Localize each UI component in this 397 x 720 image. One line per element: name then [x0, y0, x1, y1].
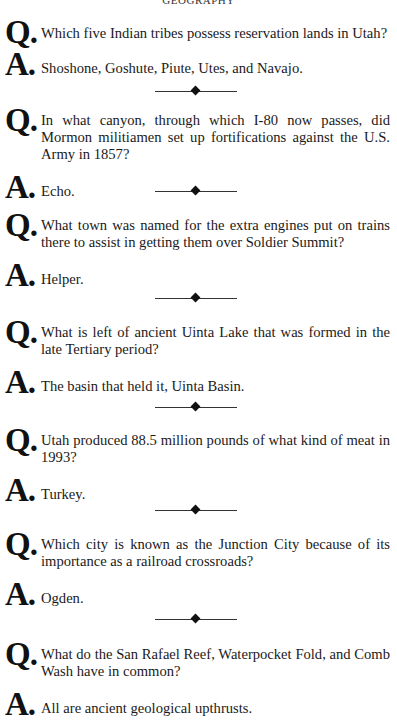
running-head: GEOGRAPHY: [0, 0, 397, 6]
question-text: Which five Indian tribes possess reserva…: [41, 14, 390, 42]
question-text: In what canyon, through which I-80 now p…: [41, 102, 390, 163]
question-row: Q. What is left of ancient Uinta Lake th…: [0, 314, 397, 358]
diamond-ornament-icon: [191, 86, 201, 96]
answer-row: A. Turkey.: [0, 476, 397, 503]
q-letter: Q.: [5, 638, 39, 671]
question-row: Q. What town was named for the extra eng…: [0, 207, 397, 251]
qa-item: Q. Utah produced 88.5 million pounds of …: [0, 422, 397, 503]
a-letter: A.: [5, 48, 37, 81]
answer-row: A. Ogden.: [0, 580, 397, 607]
section-divider: [155, 293, 237, 303]
answer-row: A. Helper.: [0, 261, 397, 288]
diamond-ornament-icon: [191, 186, 201, 196]
a-letter: A.: [5, 578, 37, 611]
section-divider: [155, 86, 237, 96]
answer-text: Turkey.: [41, 476, 390, 503]
question-text: Utah produced 88.5 million pounds of wha…: [41, 422, 390, 466]
question-row: Q. Which five Indian tribes possess rese…: [0, 14, 397, 42]
answer-text: The basin that held it, Uinta Basin.: [41, 368, 390, 395]
answer-row: A. All are ancient geological upthrusts.: [0, 690, 397, 717]
diamond-ornament-icon: [191, 402, 201, 412]
q-letter: Q.: [5, 104, 39, 137]
a-letter: A.: [5, 474, 37, 507]
question-row: Q. Utah produced 88.5 million pounds of …: [0, 422, 397, 466]
qa-item: Q. Which five Indian tribes possess rese…: [0, 14, 397, 77]
q-letter: Q.: [5, 528, 39, 561]
q-letter: Q.: [5, 209, 39, 242]
answer-text: Helper.: [41, 261, 390, 288]
answer-text: Ogden.: [41, 580, 390, 607]
a-letter: A.: [5, 171, 37, 204]
qa-item: Q. What town was named for the extra eng…: [0, 207, 397, 288]
answer-row: A. Shoshone, Goshute, Piute, Utes, and N…: [0, 50, 397, 77]
question-row: Q. What do the San Rafael Reef, Waterpoc…: [0, 636, 397, 680]
section-divider: [155, 186, 237, 196]
diamond-ornament-icon: [191, 614, 201, 624]
section-divider: [155, 402, 237, 412]
answer-text: Shoshone, Goshute, Piute, Utes, and Nava…: [41, 50, 390, 77]
question-text: What do the San Rafael Reef, Waterpocket…: [41, 636, 390, 680]
question-text: What is left of ancient Uinta Lake that …: [41, 314, 390, 358]
question-row: Q. In what canyon, through which I-80 no…: [0, 102, 397, 163]
q-letter: Q.: [5, 16, 39, 49]
diamond-ornament-icon: [191, 293, 201, 303]
section-divider: [155, 614, 237, 624]
section-divider: [155, 505, 237, 515]
a-letter: A.: [5, 366, 37, 399]
question-row: Q. Which city is known as the Junction C…: [0, 526, 397, 570]
qa-item: Q. Which city is known as the Junction C…: [0, 526, 397, 607]
qa-item: Q. What do the San Rafael Reef, Waterpoc…: [0, 636, 397, 717]
diamond-ornament-icon: [191, 505, 201, 515]
question-text: Which city is known as the Junction City…: [41, 526, 390, 570]
a-letter: A.: [5, 259, 37, 292]
question-text: What town was named for the extra engine…: [41, 207, 390, 251]
answer-row: A. The basin that held it, Uinta Basin.: [0, 368, 397, 395]
q-letter: Q.: [5, 316, 39, 349]
answer-text: All are ancient geological upthrusts.: [41, 690, 390, 717]
qa-item: Q. What is left of ancient Uinta Lake th…: [0, 314, 397, 395]
a-letter: A.: [5, 688, 37, 720]
q-letter: Q.: [5, 424, 39, 457]
